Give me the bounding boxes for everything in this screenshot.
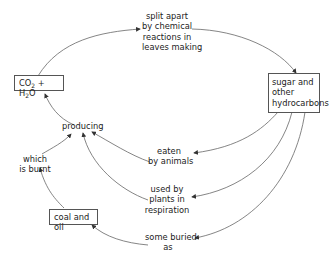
split-line-1: split apart [142,11,192,21]
burnt-line-2: is burnt [18,164,52,174]
used-line-2: plants in [144,194,190,204]
burnt-line-1: which [18,154,52,164]
split-line-3: reactions in [142,32,192,42]
used-line-1: used by [144,184,190,194]
eaten-line-1: eaten [148,146,190,156]
arrow-eaten-to-producing [92,132,150,162]
eaten-by-animals-label: eaten by animals [148,146,190,167]
sugar-line-3: hydrocarbons [272,98,316,108]
split-line-4: leaves making [142,42,192,52]
arrow-buried-to-coal [92,225,148,245]
arrow-co2-to-split [38,29,140,76]
arrow-used-to-producing [83,133,148,200]
co2-water-node: CO2 + H2O [14,75,64,91]
some-buried-label: some buried as [145,232,191,253]
buried-line-1: some buried [145,232,191,242]
sugar-hydrocarbons-node: sugar and other hydrocarbons [268,73,320,113]
arrow-split-to-sugar [192,29,296,73]
arrow-sugar-to-buried [195,112,305,238]
buried-line-2: as [145,242,191,252]
used-in-respiration-label: used by plants in respiration [144,184,190,215]
split-line-2: by chemical [142,21,192,31]
producing-label: producing [62,121,102,131]
o-text: O [29,88,36,98]
eaten-line-2: by animals [148,156,190,166]
split-apart-label: split apart by chemical reactions in lea… [142,11,192,52]
sugar-line-2: other [272,87,316,97]
coal-oil-node: coal and oil [49,209,98,225]
arrow-burnt-to-producing [42,134,71,154]
co2-text: CO [19,78,31,88]
arrow-sugar-to-eaten [194,112,278,153]
sugar-line-1: sugar and [272,77,316,87]
which-is-burnt-label: which is burnt [18,154,52,175]
used-line-3: respiration [144,205,190,215]
